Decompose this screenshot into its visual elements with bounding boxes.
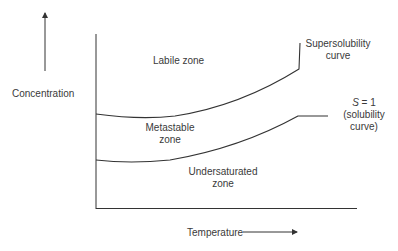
metastable-zone-line2: zone xyxy=(140,134,200,146)
supersolubility-curve-label: Supersolubility curve xyxy=(300,38,376,62)
supersolubility-line2: curve xyxy=(300,50,376,62)
labile-zone-label: Labile zone xyxy=(153,55,204,67)
solubility-line2: (solubility xyxy=(336,109,392,121)
solubility-line3: curve) xyxy=(336,121,392,133)
s-equals-one: = 1 xyxy=(359,97,376,108)
y-axis-label: Concentration xyxy=(12,88,74,100)
undersaturated-zone-line1: Undersaturated xyxy=(183,166,263,178)
metastable-zone-line1: Metastable xyxy=(140,122,200,134)
undersaturated-zone-label: Undersaturated zone xyxy=(183,166,263,190)
solubility-curve-label: S = 1 (solubility curve) xyxy=(336,97,392,133)
solubility-line1: S = 1 xyxy=(336,97,392,109)
x-axis-label: Temperature xyxy=(187,227,243,239)
supersolubility-line1: Supersolubility xyxy=(300,38,376,50)
s-variable: S xyxy=(352,97,359,108)
undersaturated-zone-line2: zone xyxy=(183,178,263,190)
solubility-curve xyxy=(96,116,328,162)
metastable-zone-label: Metastable zone xyxy=(140,122,200,146)
